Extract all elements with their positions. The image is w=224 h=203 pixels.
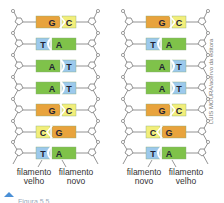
dna-ladder-left: GCTAATATGCCGTA [0,0,112,170]
label-left-old-strand: filamento velho [14,168,54,186]
svg-text:T: T [40,149,46,159]
base-pair-T-A: TA [125,147,206,159]
svg-text:T: T [150,40,156,50]
svg-text:A: A [56,149,63,159]
svg-text:C: C [150,128,157,138]
label-text: novo [56,177,96,186]
figure-caption: Figura 5.5 ... [18,198,57,203]
svg-text:A: A [49,84,56,94]
svg-text:T: T [176,62,182,72]
svg-text:A: A [159,84,166,94]
svg-text:C: C [176,106,183,116]
base-pair-A-T: AT [15,82,96,94]
image-credit: LUIS MOURA/acervo da editora [208,39,214,124]
dna-diagram-left: GCTAATATGCCGTA [0,0,112,170]
svg-text:A: A [49,62,56,72]
label-left-new-strand: filamento novo [56,168,96,186]
label-text: velho [166,177,206,186]
base-pair-G-C: GC [15,104,96,116]
svg-text:T: T [176,84,182,94]
base-pair-A-T: AT [125,60,206,72]
base-pair-C-G: CG [125,126,206,138]
svg-text:A: A [166,149,173,159]
svg-text:C: C [40,128,47,138]
svg-text:G: G [165,128,172,138]
base-pair-A-T: AT [15,60,96,72]
svg-text:A: A [166,40,173,50]
label-right-old-strand: filamento velho [166,168,206,186]
base-pair-G-C: GC [15,16,96,28]
base-pair-T-A: TA [15,38,96,50]
base-pair-A-T: AT [125,82,206,94]
base-pair-G-C: GC [125,16,206,28]
svg-text:T: T [66,84,72,94]
base-pair-T-A: TA [15,147,96,159]
svg-text:T: T [150,149,156,159]
label-text: velho [14,177,54,186]
dna-diagram-right: GCTAATATGCCGTA [110,0,222,170]
svg-text:C: C [66,106,73,116]
svg-text:G: G [55,128,62,138]
svg-text:C: C [176,18,183,28]
svg-text:G: G [158,18,165,28]
svg-text:T: T [66,62,72,72]
svg-text:G: G [158,106,165,116]
svg-text:G: G [48,106,55,116]
svg-text:T: T [40,40,46,50]
label-text: novo [124,177,164,186]
svg-text:A: A [56,40,63,50]
label-right-new-strand: filamento novo [124,168,164,186]
svg-text:G: G [48,18,55,28]
svg-text:A: A [159,62,166,72]
svg-text:C: C [66,18,73,28]
expand-caret-icon[interactable] [4,192,14,197]
base-pair-G-C: GC [125,104,206,116]
base-pair-T-A: TA [125,38,206,50]
base-pair-C-G: CG [15,126,96,138]
dna-ladder-right: GCTAATATGCCGTA [110,0,222,170]
